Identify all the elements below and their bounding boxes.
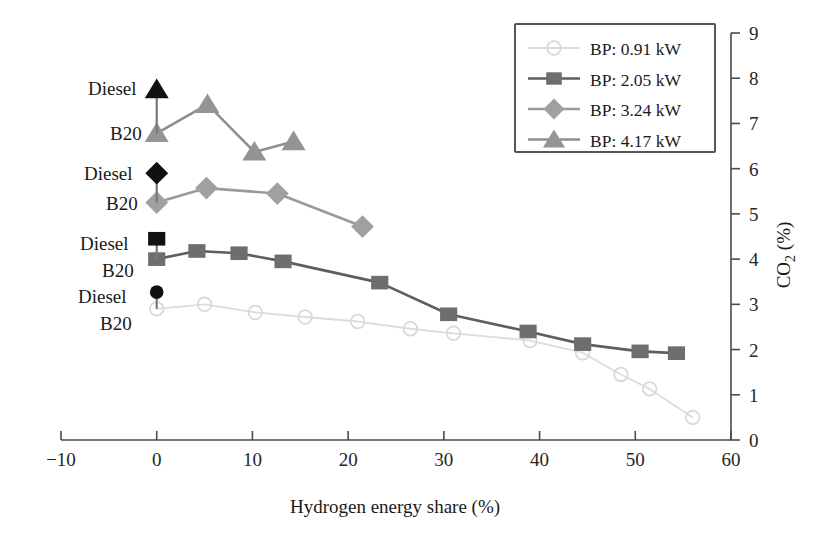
legend-item-label: BP: 2.05 kW [590, 70, 681, 90]
y-tick-label: 0 [749, 430, 759, 451]
b20-annotation: B20 [106, 193, 138, 214]
y-tick-label: 8 [749, 68, 759, 89]
data-point [631, 345, 648, 359]
y-axis-title-unit: (%) [773, 222, 795, 255]
y-axis-title-main: CO [773, 262, 794, 288]
diesel-annotation: Diesel [80, 233, 129, 254]
diesel-marker [150, 285, 164, 299]
y-tick-label: 1 [749, 385, 759, 406]
y-tick-label: 7 [749, 113, 759, 134]
data-point [668, 346, 685, 360]
x-tick-label: 20 [339, 449, 358, 470]
x-tick-label: 30 [434, 449, 453, 470]
data-point [230, 246, 247, 260]
data-point [440, 307, 457, 321]
chart-figure: −100102030405060 0123456789 Hydrogen ene… [0, 0, 831, 553]
x-tick-label: 0 [152, 449, 162, 470]
y-tick-label: 3 [749, 294, 759, 315]
x-axis-title: Hydrogen energy share (%) [290, 496, 500, 518]
y-tick-label: 2 [749, 340, 759, 361]
b20-annotation: B20 [110, 123, 142, 144]
data-point [371, 276, 388, 290]
x-tick-label: 60 [722, 449, 741, 470]
diesel-annotation: Diesel [88, 78, 137, 99]
y-tick-label: 6 [749, 159, 759, 180]
data-point [574, 337, 591, 351]
legend-marker-swatch [546, 72, 562, 84]
b20-annotation: B20 [102, 260, 134, 281]
diesel-marker [148, 232, 165, 246]
legend-item-label: BP: 0.91 kW [590, 39, 681, 59]
chart-legend: BP: 0.91 kWBP: 2.05 kWBP: 3.24 kWBP: 4.1… [515, 24, 715, 152]
diesel-annotation: Diesel [84, 163, 133, 184]
legend-item-label: BP: 3.24 kW [590, 100, 681, 120]
data-point [520, 325, 537, 339]
co2-vs-hydrogen-share-chart: −100102030405060 0123456789 Hydrogen ene… [0, 0, 831, 553]
y-tick-label: 5 [749, 204, 759, 225]
b20-annotation: B20 [100, 313, 132, 334]
data-point [188, 244, 205, 258]
diesel-annotation: Diesel [78, 286, 127, 307]
legend-item-label: BP: 4.17 kW [590, 131, 681, 151]
y-tick-label: 9 [749, 23, 759, 44]
x-tick-label: 40 [530, 449, 549, 470]
x-tick-label: 50 [626, 449, 645, 470]
x-tick-label: 10 [243, 449, 262, 470]
data-point [274, 255, 291, 269]
y-tick-label: 4 [749, 249, 759, 270]
x-tick-label: −10 [46, 449, 76, 470]
y-axis-title-sub: 2 [783, 255, 798, 262]
